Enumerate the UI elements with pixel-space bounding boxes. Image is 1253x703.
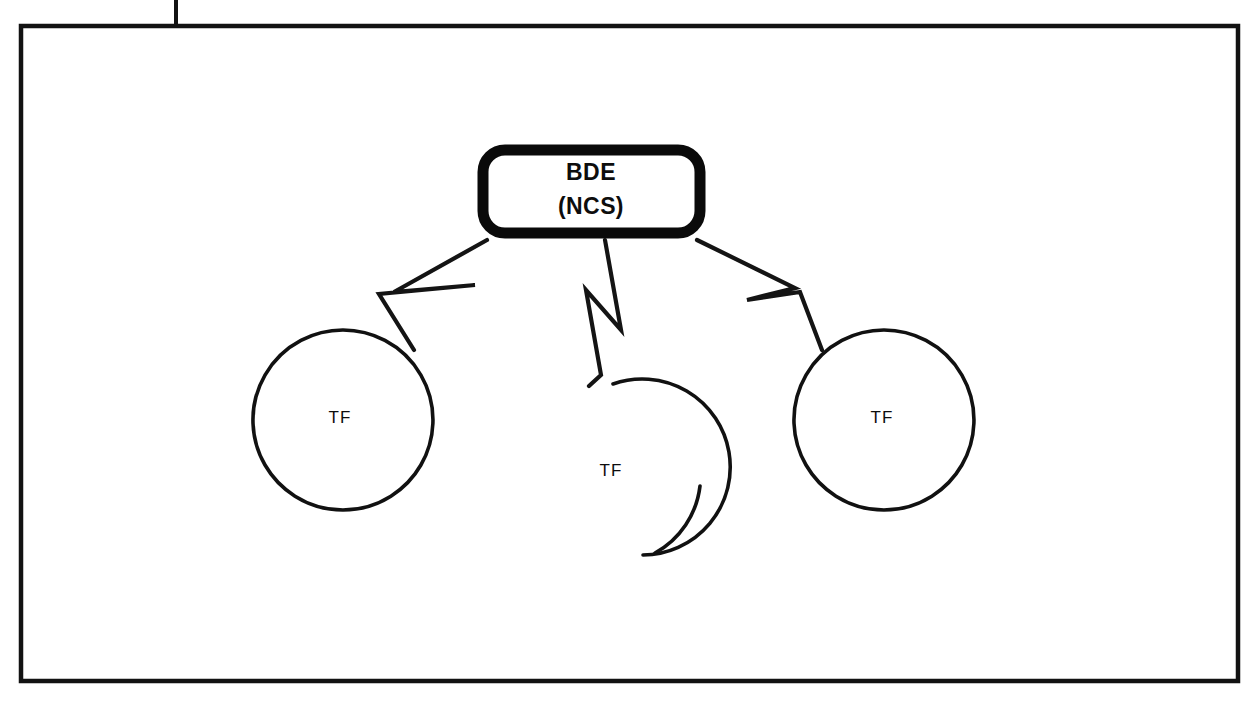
network-diagram: BDE (NCS) TF TF TF [0,0,1253,703]
link-bde-tf-left[interactable] [379,240,487,350]
outer-frame [21,26,1238,681]
link-bde-tf-center[interactable] [586,240,621,386]
node-tf-right[interactable]: TF [794,330,974,510]
bde-ncs-label-line2: (NCS) [558,193,624,219]
link-bde-tf-right[interactable] [697,240,822,350]
tf-right-label: TF [871,408,894,427]
bde-ncs-label-line1: BDE [566,159,616,185]
tf-center-label: TF [600,461,623,480]
tf-left-label: TF [329,408,352,427]
figure-page: BDE (NCS) TF TF TF [0,0,1253,703]
node-tf-left[interactable]: TF [253,330,433,510]
lightning-bolt-icon [586,240,621,386]
lightning-bolt-icon [697,240,822,350]
node-tf-center[interactable]: TF [600,379,731,555]
lightning-bolt-icon [379,240,487,350]
node-bde-ncs[interactable]: BDE (NCS) [483,150,700,233]
